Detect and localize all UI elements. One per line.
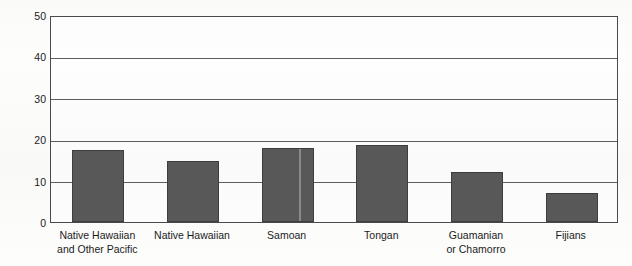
y-tick-10: 10 (20, 177, 46, 187)
bar (546, 193, 598, 222)
bar (167, 161, 219, 222)
gridline-10 (51, 182, 617, 183)
gridline-20 (51, 141, 617, 142)
gridline-30 (51, 99, 617, 100)
x-category-label: Fijians (511, 229, 631, 243)
gridline-40 (51, 58, 617, 59)
y-tick-20: 20 (20, 135, 46, 145)
bar (451, 172, 503, 223)
scan-streak (299, 149, 301, 221)
y-tick-40: 40 (20, 52, 46, 62)
y-tick-50: 50 (20, 11, 46, 21)
plot-area (50, 16, 618, 223)
bar (72, 150, 124, 222)
bar (356, 145, 408, 222)
bar (262, 148, 314, 222)
y-tick-0: 0 (20, 218, 46, 228)
y-tick-30: 30 (20, 94, 46, 104)
poverty-bar-chart: Percent below poverty 01020304050 Native… (0, 0, 632, 266)
